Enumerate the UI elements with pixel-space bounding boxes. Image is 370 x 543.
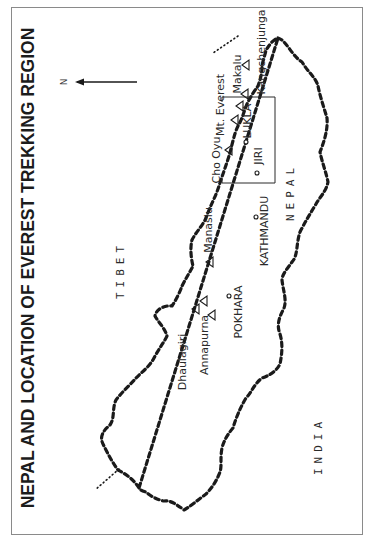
west-tripoint-boundary — [95, 469, 119, 490]
map-frame — [12, 8, 363, 535]
peak-label-makalu: Makalu — [231, 54, 244, 93]
town-jiri: JIRI — [252, 147, 265, 175]
peak-dhaulagiri: Dhaulagiri — [176, 304, 199, 390]
town-label-jiri: JIRI — [252, 147, 265, 165]
nepal-map: NEPAL AND LOCATION OF EVEREST TREKKING R… — [0, 0, 370, 543]
town-circle-icon — [227, 294, 231, 298]
town-lukla: LUKLA — [241, 103, 254, 144]
town-pokhara: POKHARA — [227, 285, 245, 338]
north-arrow-head-icon — [75, 79, 84, 86]
north-label: N — [59, 79, 69, 86]
peak-label-mt-everest: Mt. Everest — [214, 73, 227, 136]
town-label-kathmandu: KATHMANDU — [258, 196, 271, 266]
peak-label-dhaulagiri: Dhaulagiri — [176, 334, 189, 391]
peak-label-manaslu: Manaslu — [202, 207, 215, 253]
peak-label-cho-oyu: Cho Oyu — [210, 136, 223, 183]
country-label-nepal: NEPAL — [284, 163, 297, 221]
peak-makalu: Makalu — [231, 54, 248, 99]
town-label-pokhara: POKHARA — [232, 285, 245, 338]
east-tripoint-boundary — [213, 36, 238, 53]
north-arrow: N — [59, 79, 137, 86]
peak-kangchenjunga: Kangchenjunga — [242, 9, 268, 94]
town-label-lukla: LUKLA — [241, 103, 254, 138]
country-label-india: INDIA — [312, 417, 325, 475]
town-kathmandu: KATHMANDU — [254, 196, 271, 266]
town-circle-icon — [244, 140, 248, 144]
peak-triangle-icon — [200, 296, 207, 306]
town-circle-icon — [255, 171, 259, 175]
country-label-tibet: TIBET — [114, 241, 127, 299]
peak-label-kangchenjunga: Kangchenjunga — [255, 9, 268, 94]
peak-annapurna: Annapurna — [198, 296, 215, 375]
peak-label-annapurna: Annapurna — [198, 315, 211, 375]
map-title: NEPAL AND LOCATION OF EVEREST TREKKING R… — [18, 28, 38, 509]
peak-triangle-icon — [231, 115, 238, 125]
